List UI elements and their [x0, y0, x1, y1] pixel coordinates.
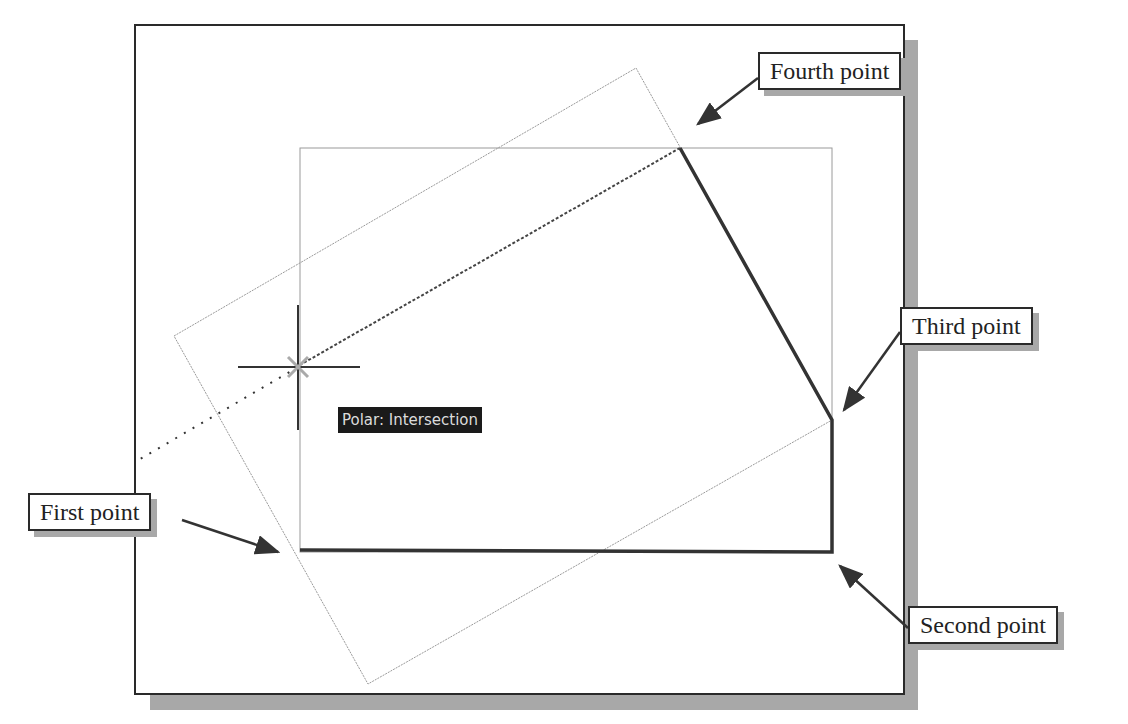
callout-fourth-point: Fourth point	[758, 52, 901, 90]
viewport-frame	[135, 25, 904, 694]
drawing-area: Polar: Intersection First point Second p…	[0, 0, 1128, 724]
polar-tooltip: Polar: Intersection	[338, 407, 482, 433]
callout-third-point: Third point	[900, 307, 1033, 345]
callout-second-point: Second point	[908, 606, 1058, 644]
callout-first-point: First point	[28, 493, 151, 531]
